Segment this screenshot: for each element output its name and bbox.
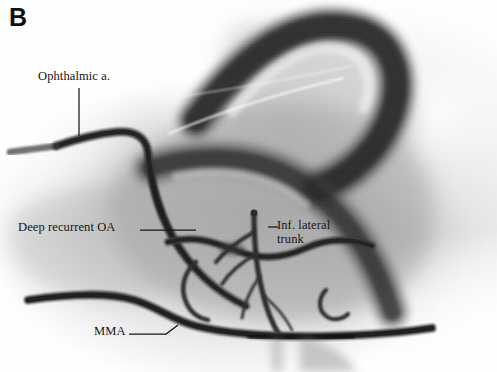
label-ilt-line1: Inf. lateral — [277, 218, 330, 232]
panel-letter: B — [9, 5, 27, 30]
label-deep-recurrent-oa: Deep recurrent OA — [18, 221, 115, 235]
label-inferior-lateral-trunk: Inf. lateral trunk — [277, 219, 330, 246]
vessel-artwork — [0, 0, 497, 372]
film-edge-smudge — [272, 336, 356, 372]
label-ilt-line2: trunk — [277, 232, 304, 246]
leader-mma — [129, 325, 178, 334]
label-middle-meningeal-artery: MMA — [94, 325, 126, 339]
label-ophthalmic-artery: Ophthalmic a. — [38, 70, 110, 84]
angiogram-figure: B Ophthalmic a. Deep recurrent OA Inf. l… — [0, 0, 497, 372]
